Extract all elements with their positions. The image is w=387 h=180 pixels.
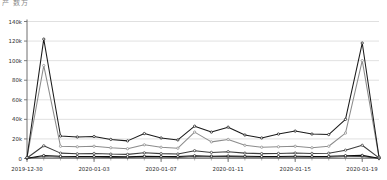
line-chart-plot <box>0 0 387 180</box>
series-point <box>210 151 212 153</box>
series-point <box>43 64 45 66</box>
series-point <box>328 155 330 157</box>
series-point <box>193 155 195 157</box>
x-axis-tick-label: 2019-12-30 <box>11 166 42 172</box>
series-point <box>59 155 61 157</box>
series-point <box>59 145 61 147</box>
series-point <box>43 145 45 147</box>
series-point <box>361 42 363 44</box>
series-point <box>143 152 145 154</box>
series-point <box>244 152 246 154</box>
series-point <box>328 133 330 135</box>
series-point <box>193 150 195 152</box>
series-point <box>43 38 45 40</box>
series-point <box>160 155 162 157</box>
series-point <box>361 154 363 156</box>
x-axis-tick-label: 2020-01-15 <box>280 166 311 172</box>
y-axis-tick-label: 120k <box>0 38 22 44</box>
series-point <box>277 152 279 154</box>
y-axis-tick-label: 20k <box>0 136 22 142</box>
series-point <box>76 155 78 157</box>
series-point <box>93 155 95 157</box>
series-line <box>27 39 379 157</box>
series-point <box>93 145 95 147</box>
series-point <box>244 134 246 136</box>
series-point <box>76 153 78 155</box>
series-point <box>261 137 263 139</box>
series-point <box>227 138 229 140</box>
series-point <box>177 153 179 155</box>
series-point <box>344 132 346 134</box>
series-point <box>26 156 28 158</box>
y-axis-tick-label: 0 <box>0 156 22 162</box>
series-point <box>110 155 112 157</box>
series-point <box>76 136 78 138</box>
series-point <box>227 126 229 128</box>
series-point <box>277 133 279 135</box>
series-point <box>344 118 346 120</box>
series-point <box>328 145 330 147</box>
series-point <box>126 153 128 155</box>
series-point <box>344 149 346 151</box>
series-point <box>277 146 279 148</box>
x-axis-tick-label: 2020-01-19 <box>346 166 377 172</box>
series-point <box>378 156 380 158</box>
series-point <box>261 152 263 154</box>
series-point <box>227 151 229 153</box>
series-point <box>59 152 61 154</box>
series-point <box>59 135 61 137</box>
series-point <box>361 144 363 146</box>
series-point <box>43 154 45 156</box>
series-point <box>328 152 330 154</box>
series-point <box>126 140 128 142</box>
y-axis-tick-label: 100k <box>0 58 22 64</box>
series-point <box>294 155 296 157</box>
series-point <box>244 144 246 146</box>
series-point <box>261 155 263 157</box>
series-point <box>126 148 128 150</box>
series-point <box>361 59 363 61</box>
series-point <box>294 130 296 132</box>
x-axis-tick-label: 2020-01-11 <box>212 166 243 172</box>
series-point <box>93 135 95 137</box>
series-point <box>344 155 346 157</box>
series-point <box>177 147 179 149</box>
series-point <box>93 152 95 154</box>
series-point <box>227 155 229 157</box>
series-point <box>160 152 162 154</box>
y-axis-tick-label: 60k <box>0 97 22 103</box>
series-point <box>193 131 195 133</box>
series-point <box>210 141 212 143</box>
y-axis-tick-label: 140k <box>0 19 22 25</box>
series-point <box>177 139 179 141</box>
y-axis-tick-label: 40k <box>0 116 22 122</box>
series-point <box>160 146 162 148</box>
chart-screenshot: 产 数方 020k40k60k80k100k120k140k2019-12-30… <box>0 0 387 180</box>
series-point <box>177 155 179 157</box>
series-point <box>110 147 112 149</box>
series-point <box>110 138 112 140</box>
series-line <box>27 61 379 158</box>
series-point <box>294 152 296 154</box>
series-point <box>193 125 195 127</box>
series-point <box>126 156 128 158</box>
series-point <box>261 146 263 148</box>
series-point <box>143 144 145 146</box>
series-point <box>210 131 212 133</box>
series-point <box>311 147 313 149</box>
series-point <box>143 132 145 134</box>
series-point <box>76 146 78 148</box>
series-point <box>110 153 112 155</box>
series-point <box>277 155 279 157</box>
series-point <box>294 145 296 147</box>
series-point <box>160 137 162 139</box>
series-point <box>143 155 145 157</box>
series-point <box>311 133 313 135</box>
series-point <box>311 152 313 154</box>
series-point <box>244 155 246 157</box>
series-point <box>311 155 313 157</box>
x-axis-tick-label: 2020-01-03 <box>78 166 109 172</box>
x-axis-tick-label: 2020-01-07 <box>145 166 176 172</box>
series-point <box>210 155 212 157</box>
y-axis-tick-label: 80k <box>0 77 22 83</box>
